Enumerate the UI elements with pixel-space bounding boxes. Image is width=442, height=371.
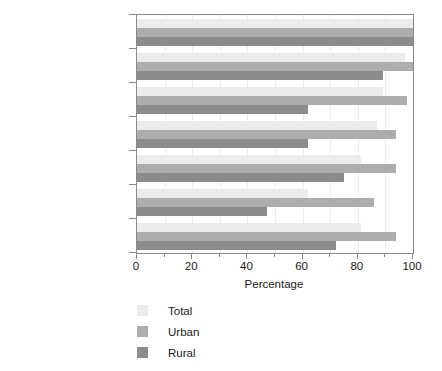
legend-label: Urban [168,326,199,338]
bar [137,198,374,207]
legend-swatch-icon [137,305,148,316]
x-axis-tick-label: 100 [402,260,421,272]
y-axis-tick [129,150,136,151]
bar [137,121,377,130]
bar-group [137,223,413,250]
legend-label: Rural [168,347,195,359]
bar [137,19,413,28]
y-axis-tick [129,218,136,219]
chart-legend: TotalUrbanRural [137,300,199,363]
bar-group [137,121,413,148]
y-axis-tick [129,82,136,83]
bar [137,173,344,182]
legend-item[interactable]: Urban [137,321,199,342]
bar-group [137,189,413,216]
legend-swatch-icon [137,326,148,337]
bar [137,207,267,216]
bar-chart: North AmericaEuropeOceaniaLatin America … [0,0,442,371]
bar [137,164,396,173]
x-axis-tick [246,253,247,259]
x-axis-tick-label: 0 [133,260,139,272]
x-axis-minor-tick [274,253,275,257]
y-axis-tick [129,252,136,253]
bar [137,96,407,105]
y-axis-tick [129,48,136,49]
bar [137,189,308,198]
bar [137,130,396,139]
legend-item[interactable]: Total [137,300,199,321]
bar-group [137,53,413,80]
y-axis-tick [129,14,136,15]
bar [137,232,396,241]
x-axis-minor-tick [384,253,385,257]
legend-item[interactable]: Rural [137,342,199,363]
bar [137,37,413,46]
legend-label: Total [168,305,192,317]
x-axis-tick-label: 60 [295,260,308,272]
y-axis-tick [129,184,136,185]
x-axis-tick-label: 40 [240,260,253,272]
bar [137,87,383,96]
x-axis-title: Percentage [136,278,412,290]
x-axis-tick-label: 80 [350,260,363,272]
x-axis-tick [302,253,303,259]
x-axis-tick [191,253,192,259]
x-axis-tick-label: 20 [185,260,198,272]
bar [137,139,308,148]
bar [137,155,361,164]
x-axis-tick [357,253,358,259]
bar [137,241,336,250]
bar [137,223,361,232]
bar-group [137,19,413,46]
bar [137,71,383,80]
bar [137,28,413,37]
plot-area [136,14,414,254]
bar [137,62,413,71]
x-axis-minor-tick [329,253,330,257]
y-axis-tick [129,116,136,117]
x-axis-tick [412,253,413,259]
x-axis-minor-tick [164,253,165,257]
legend-swatch-icon [137,347,148,358]
bar-group [137,87,413,114]
x-axis-tick [136,253,137,259]
bar [137,105,308,114]
bar-group [137,155,413,182]
x-axis-minor-tick [219,253,220,257]
bar [137,53,405,62]
